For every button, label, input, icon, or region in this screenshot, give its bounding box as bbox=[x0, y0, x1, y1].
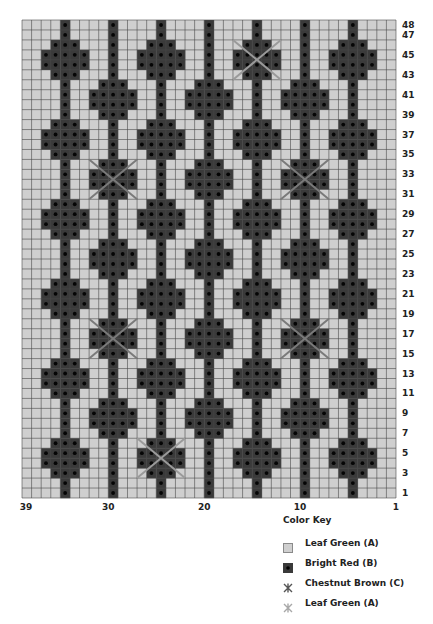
row-label: 41 bbox=[402, 90, 415, 100]
key-label: Leaf Green (A) bbox=[305, 538, 379, 548]
key-item-leaf-green-a-cross: Leaf Green (A) bbox=[283, 593, 433, 613]
row-label: 13 bbox=[402, 369, 415, 379]
row-label: 19 bbox=[402, 309, 415, 319]
key-label: Chestnut Brown (C) bbox=[305, 578, 404, 588]
light-cross-icon bbox=[283, 598, 293, 608]
key-item-bright-red-b: Bright Red (B) bbox=[283, 553, 433, 573]
key-label: Leaf Green (A) bbox=[305, 598, 379, 608]
column-label: 30 bbox=[102, 502, 115, 512]
row-label: 15 bbox=[402, 349, 415, 359]
row-label: 37 bbox=[402, 130, 415, 140]
row-label: 9 bbox=[402, 408, 408, 418]
row-label: 17 bbox=[402, 329, 415, 339]
row-label: 1 bbox=[402, 488, 408, 498]
dark-cross-icon bbox=[283, 578, 293, 588]
row-label: 27 bbox=[402, 229, 415, 239]
key-item-chestnut-brown-c: Chestnut Brown (C) bbox=[283, 573, 433, 593]
row-label: 23 bbox=[402, 269, 415, 279]
column-label: 20 bbox=[198, 502, 211, 512]
row-label: 7 bbox=[402, 428, 408, 438]
row-label: 3 bbox=[402, 468, 408, 478]
row-label: 45 bbox=[402, 50, 415, 60]
knitting-chart-grid bbox=[0, 0, 433, 510]
key-item-leaf-green-a: Leaf Green (A) bbox=[283, 533, 433, 553]
row-label: 5 bbox=[402, 448, 408, 458]
row-label: 43 bbox=[402, 70, 415, 80]
key-label: Bright Red (B) bbox=[305, 558, 377, 568]
row-label: 25 bbox=[402, 249, 415, 259]
row-label: 47 bbox=[402, 30, 415, 40]
light-square-icon bbox=[283, 538, 293, 548]
color-key-title: Color Key bbox=[283, 515, 433, 525]
row-label: 48 bbox=[402, 20, 415, 30]
column-label: 10 bbox=[294, 502, 307, 512]
row-label: 21 bbox=[402, 289, 415, 299]
row-label: 33 bbox=[402, 169, 415, 179]
column-label: 1 bbox=[393, 502, 399, 512]
row-label: 31 bbox=[402, 189, 415, 199]
row-label: 11 bbox=[402, 388, 415, 398]
color-key: Color Key Leaf Green (A) Bright Red (B) … bbox=[283, 515, 433, 613]
row-label: 35 bbox=[402, 149, 415, 159]
row-label: 39 bbox=[402, 110, 415, 120]
column-label: 39 bbox=[20, 502, 33, 512]
row-label: 29 bbox=[402, 209, 415, 219]
dark-dot-square-icon bbox=[283, 558, 293, 568]
